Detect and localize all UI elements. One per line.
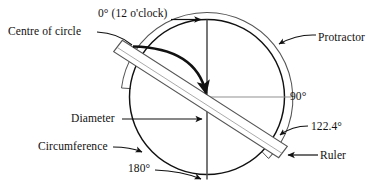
leader-measured-angle xyxy=(280,126,308,135)
label-one-eighty-degrees: 180° xyxy=(128,163,150,175)
ruler-shape xyxy=(114,40,288,157)
protractor-diagram: 0° (12 o'clock) Centre of circle Protrac… xyxy=(0,0,388,191)
label-measured-angle: 122.4° xyxy=(311,121,342,133)
leader-circumference xyxy=(113,147,142,152)
label-zero-degrees: 0° (12 o'clock) xyxy=(98,8,167,20)
leader-one-eighty-degrees xyxy=(155,170,201,179)
label-ninety-degrees: 90° xyxy=(290,91,306,103)
label-protractor: Protractor xyxy=(318,32,365,44)
label-ruler: Ruler xyxy=(320,150,346,162)
label-diameter: Diameter xyxy=(71,113,115,125)
label-centre-of-circle: Centre of circle xyxy=(8,26,81,38)
leader-protractor xyxy=(279,35,316,44)
label-circumference: Circumference xyxy=(38,141,108,153)
